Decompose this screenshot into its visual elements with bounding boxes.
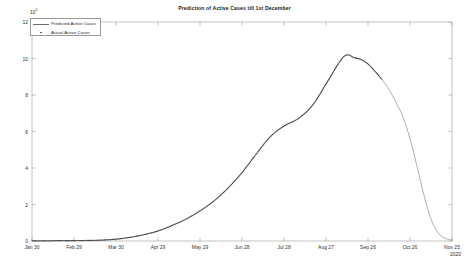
y-tick-label: 4 [14, 165, 28, 171]
chart-figure: Prediction of Active Cases till 1st Dece… [0, 0, 469, 271]
series-predicted-line [32, 55, 452, 241]
legend-line-swatch [31, 19, 51, 28]
year-label: 2020 [450, 251, 461, 257]
x-tick-label: Oct 26 [390, 244, 430, 250]
y-tick-label: 8 [14, 92, 28, 98]
legend-item-actual: Actual Active Cases [31, 28, 100, 37]
y-tick-marks [32, 22, 452, 241]
series-actual-markers [31, 54, 382, 241]
x-tick-marks [32, 22, 452, 241]
data-series-group [31, 54, 452, 241]
x-tick-label: Feb 29 [54, 244, 94, 250]
axes-box [32, 22, 452, 241]
x-tick-label: Jun 28 [222, 244, 262, 250]
y-tick-label: 6 [14, 129, 28, 135]
y-tick-label: 10 [14, 56, 28, 62]
y-tick-label: 2 [14, 202, 28, 208]
y-tick-label: 12 [14, 19, 28, 25]
legend-label-predicted: Predicted Active Cases [51, 21, 96, 26]
x-tick-label: Mar 30 [96, 244, 136, 250]
x-tick-label: Apr 29 [138, 244, 178, 250]
x-tick-label: Jul 28 [264, 244, 304, 250]
x-tick-label: Aug 27 [306, 244, 346, 250]
x-tick-label: Nov 25 [432, 244, 469, 250]
x-tick-label: Jan 30 [12, 244, 52, 250]
chart-legend: Predicted Active Cases Actual Active Cas… [30, 18, 101, 36]
x-tick-label: May 29 [180, 244, 220, 250]
legend-label-actual: Actual Active Cases [51, 30, 90, 35]
x-tick-label: Sep 26 [348, 244, 388, 250]
legend-dot-swatch [31, 28, 51, 37]
plot-canvas [0, 0, 469, 271]
legend-item-predicted: Predicted Active Cases [31, 19, 100, 28]
